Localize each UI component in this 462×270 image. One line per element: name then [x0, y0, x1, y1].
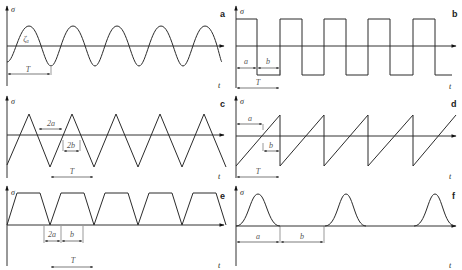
- sigma-label: σ: [240, 97, 245, 106]
- amplitude-label: ζₐ: [23, 35, 29, 44]
- svg-text:a: a: [256, 232, 260, 241]
- b-label: b: [266, 57, 270, 66]
- svg-text:σ: σ: [240, 97, 245, 106]
- svg-text:T: T: [70, 167, 75, 176]
- svg-text:T: T: [256, 167, 261, 176]
- svg-text:T: T: [71, 256, 76, 265]
- svg-text:a: a: [248, 114, 252, 123]
- panel-f: a b σ t f: [236, 186, 456, 270]
- t-label: t: [449, 261, 452, 270]
- a-label: a: [248, 114, 252, 123]
- period-label: T: [256, 167, 261, 176]
- t-label: t: [449, 172, 452, 181]
- svg-text:t: t: [449, 261, 452, 270]
- svg-text:2a: 2a: [47, 119, 55, 128]
- svg-text:b: b: [452, 9, 458, 19]
- svg-text:t: t: [218, 172, 221, 181]
- t-label: t: [218, 261, 221, 270]
- svg-text:2b: 2b: [67, 141, 75, 150]
- panel-letter: e: [220, 191, 225, 201]
- 2a-label: 2a: [47, 119, 55, 128]
- panel-b: a b T σ t b: [236, 6, 458, 91]
- 2a-label: 2a: [48, 230, 56, 239]
- svg-text:σ: σ: [240, 188, 245, 197]
- svg-text:T: T: [256, 78, 261, 87]
- t-label: t: [218, 172, 221, 181]
- svg-text:σ: σ: [11, 188, 16, 197]
- a-label: a: [244, 57, 248, 66]
- svg-text:t: t: [449, 82, 452, 91]
- trapezoid-wave: [7, 193, 226, 225]
- svg-text:t: t: [218, 261, 221, 270]
- sigma-label: σ: [240, 188, 245, 197]
- triangle-wave: [7, 114, 226, 167]
- svg-text:σ: σ: [11, 5, 16, 14]
- panel-letter: b: [452, 9, 458, 19]
- sigma-label: σ: [11, 5, 16, 14]
- svg-text:b: b: [70, 230, 74, 239]
- svg-text:σ: σ: [240, 7, 245, 16]
- 2b-label: 2b: [67, 141, 75, 150]
- svg-text:e: e: [220, 191, 225, 201]
- panel-letter: a: [220, 9, 226, 19]
- sigma-label: σ: [240, 7, 245, 16]
- panel-a: T ζₐ σ t a: [7, 5, 226, 90]
- svg-text:d: d: [451, 99, 457, 109]
- b-label: b: [70, 230, 74, 239]
- panel-d: a b T σ t d: [236, 96, 457, 181]
- svg-text:t: t: [218, 81, 221, 90]
- svg-text:b: b: [266, 57, 270, 66]
- panel-e: 2a b T σ t e: [7, 186, 226, 270]
- sigma-label: σ: [11, 188, 16, 197]
- square-wave: [236, 19, 452, 75]
- b-label: b: [300, 232, 304, 241]
- svg-text:T: T: [26, 65, 31, 74]
- svg-text:c: c: [220, 99, 225, 109]
- b-label: b: [269, 141, 273, 150]
- sigma-label: σ: [11, 97, 16, 106]
- period-label: T: [256, 78, 261, 87]
- waveform-figure: T ζₐ σ t a a b T σ t b 2a 2b T σ t c: [0, 0, 462, 270]
- t-label: t: [218, 81, 221, 90]
- panel-c: 2a 2b T σ t c: [7, 96, 226, 181]
- svg-text:t: t: [449, 172, 452, 181]
- svg-text:b: b: [300, 232, 304, 241]
- svg-text:σ: σ: [11, 97, 16, 106]
- svg-text:ζₐ: ζₐ: [23, 35, 29, 44]
- panel-letter: d: [451, 99, 457, 109]
- svg-text:a: a: [220, 9, 226, 19]
- svg-text:2a: 2a: [48, 230, 56, 239]
- period-label: T: [71, 256, 76, 265]
- panel-letter: c: [220, 99, 225, 109]
- a-label: a: [256, 232, 260, 241]
- period-label: T: [70, 167, 75, 176]
- svg-text:b: b: [269, 141, 273, 150]
- svg-text:a: a: [244, 57, 248, 66]
- t-label: t: [449, 82, 452, 91]
- period-label: T: [26, 65, 31, 74]
- pulse-wave: [236, 194, 455, 226]
- svg-text:f: f: [452, 191, 456, 201]
- panel-letter: f: [452, 191, 456, 201]
